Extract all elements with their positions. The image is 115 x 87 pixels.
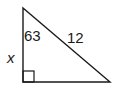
vertical-leg-label: x	[6, 49, 15, 66]
hypotenuse-label: 12	[67, 29, 84, 46]
right-angle-marker	[23, 71, 34, 82]
triangle-diagram: 63 12 x	[0, 0, 115, 87]
angle-label: 63	[24, 27, 41, 44]
